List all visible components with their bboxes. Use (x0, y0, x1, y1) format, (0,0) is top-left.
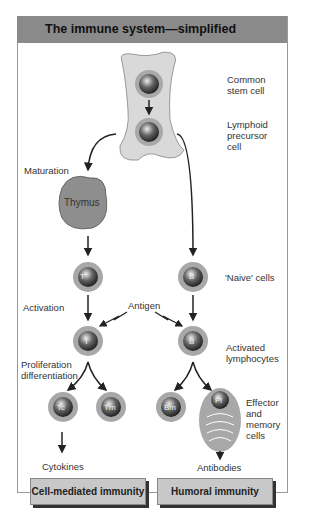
effector-label: Effector and memory cells (246, 397, 280, 441)
cell-b-activated: B (189, 336, 194, 347)
antibodies-label: Antibodies (197, 462, 241, 473)
cell-bm: Bm (164, 402, 176, 413)
naive-label: 'Naive' cells (225, 272, 275, 283)
cytokines-label: Cytokines (42, 461, 84, 472)
cell-mediated-immunity-box: Cell-mediated immunity (30, 478, 146, 505)
cell-b-naive: B (189, 271, 194, 282)
lymphoid-label: Lymphoid precursor cell (227, 119, 268, 152)
proliferation-label: Proliferation differentiation (21, 359, 78, 381)
activation-label: Activation (23, 302, 64, 313)
cell-tc: Tc (57, 402, 65, 413)
antigen-label: Antigen (128, 300, 160, 311)
cell-t-activated: T (84, 336, 89, 347)
maturation-label: Maturation (24, 165, 69, 176)
cell-pl: Pl (215, 395, 222, 406)
thymus-label: Thymus (64, 197, 100, 208)
activated-label: Activated lymphocytes (226, 342, 279, 364)
common-stem-label: Common stem cell (227, 74, 266, 96)
cell-t-naive: T (80, 271, 85, 282)
cell-tm: Tm (104, 402, 116, 413)
humoral-immunity-box: Humoral immunity (157, 478, 273, 505)
